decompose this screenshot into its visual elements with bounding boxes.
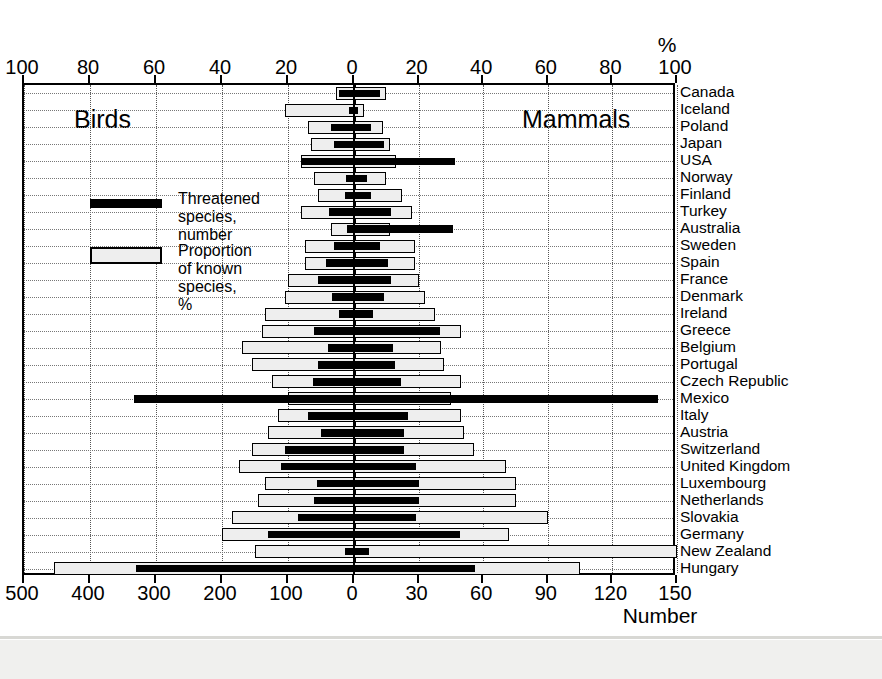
category-label: New Zealand (680, 543, 771, 558)
bottom-number-axis (0, 578, 882, 602)
axis-tick-label: 60 (535, 57, 557, 77)
bar-birds-number (326, 259, 354, 267)
bar-mammals-number (354, 344, 393, 352)
bar-mammals-number (354, 276, 391, 284)
bar-birds-number (136, 565, 354, 573)
legend-swatch-number (90, 199, 162, 208)
axis-tick-label: 80 (599, 57, 621, 77)
bar-mammals-number (354, 548, 369, 556)
axis-tick-label: 100 (269, 583, 302, 603)
bar-mammals-number (354, 497, 419, 505)
plot-area: Birds Mammals (22, 83, 675, 575)
axis-tick-label: 20 (275, 57, 297, 77)
legend-label-number: Threatened species, number (178, 190, 260, 244)
axis-tick-label: 400 (71, 583, 104, 603)
category-label: Slovakia (680, 509, 739, 524)
bar-mammals-number (354, 225, 453, 233)
bar-birds-number (346, 175, 354, 183)
bar-mammals-number (354, 141, 384, 149)
axis-tick-label: 200 (203, 583, 236, 603)
axis-tick-label: 0 (346, 583, 357, 603)
bar-birds-number (318, 361, 354, 369)
category-label: Belgium (680, 339, 736, 354)
chart-legend: Threatened species, number Proportion of… (50, 193, 300, 283)
axis-tick-label: 300 (137, 583, 170, 603)
bar-mammals-number (354, 531, 460, 539)
bar-birds-number (308, 412, 354, 420)
bar-birds-number (347, 225, 354, 233)
top-percent-axis (0, 60, 882, 82)
bar-birds-number (339, 310, 354, 318)
bar-mammals-number (354, 208, 391, 216)
category-label: Spain (680, 254, 720, 269)
axis-tick-label: 40 (209, 57, 231, 77)
axis-tick-label: 150 (658, 583, 691, 603)
axis-tick-label: 40 (470, 57, 492, 77)
bar-mammals-number (354, 412, 408, 420)
category-label: Poland (680, 118, 728, 133)
category-label: Mexico (680, 390, 729, 405)
bar-birds-number (345, 192, 354, 200)
bottom-axis-unit-label: Number (623, 604, 698, 628)
category-label: Ireland (680, 305, 727, 320)
category-label: United Kingdom (680, 458, 790, 473)
bar-mammals-number (354, 463, 416, 471)
bar-mammals-number (354, 293, 384, 301)
bar-birds-number (331, 124, 354, 132)
category-label: Portugal (680, 356, 738, 371)
category-label: Sweden (680, 237, 736, 252)
category-label: Italy (680, 407, 708, 422)
bar-mammals-number (354, 175, 367, 183)
legend-label-proportion: Proportion of known species, % (178, 242, 252, 314)
axis-tick-label: 90 (535, 583, 557, 603)
bar-birds-number (339, 90, 354, 98)
chart-page: % Birds Mammals CanadaIcelandPolandJapan… (0, 0, 882, 679)
bar-birds-number (334, 141, 354, 149)
bar-mammals-proportion (354, 545, 677, 558)
bar-mammals-number (354, 514, 416, 522)
category-label: Switzerland (680, 441, 760, 456)
bar-mammals-number (354, 107, 358, 115)
category-label: Australia (680, 220, 740, 235)
category-label: Denmark (680, 288, 743, 303)
bar-mammals-number (354, 480, 419, 488)
category-label: Norway (680, 169, 733, 184)
axis-tick-label: 100 (658, 57, 691, 77)
bar-mammals-number (354, 361, 395, 369)
bar-mammals-number (354, 90, 380, 98)
category-label: Hungary (680, 560, 739, 575)
bar-birds-number (313, 378, 354, 386)
top-axis-unit-label: % (658, 33, 677, 57)
category-label: Germany (680, 526, 744, 541)
bar-birds-number (329, 208, 354, 216)
bar-birds-number (285, 446, 354, 454)
category-label: France (680, 271, 728, 286)
category-label: Turkey (680, 203, 727, 218)
category-label: Luxembourg (680, 475, 766, 490)
bar-mammals-number (354, 327, 440, 335)
axis-tick-label: 60 (470, 583, 492, 603)
bar-mammals-number (354, 378, 401, 386)
bar-mammals-number (354, 158, 455, 166)
category-label: Greece (680, 322, 731, 337)
category-label: Finland (680, 186, 731, 201)
bar-birds-number (345, 548, 354, 556)
bar-birds-number (134, 395, 354, 403)
bar-birds-number (298, 514, 354, 522)
bar-birds-number (301, 158, 354, 166)
vertical-gridline (677, 85, 678, 573)
bar-birds-number (334, 242, 354, 250)
bar-birds-proportion (285, 104, 354, 117)
axis-tick-label: 80 (77, 57, 99, 77)
bar-birds-proportion (255, 545, 354, 558)
bar-birds-number (281, 463, 354, 471)
category-label: Canada (680, 84, 734, 99)
bar-mammals-number (354, 395, 658, 403)
legend-swatch-proportion (90, 247, 162, 264)
page-divider (0, 636, 882, 639)
bar-mammals-number (354, 192, 371, 200)
page-footer (0, 640, 882, 679)
bar-birds-number (314, 497, 354, 505)
bar-birds-number (268, 531, 354, 539)
category-label: Iceland (680, 101, 730, 116)
